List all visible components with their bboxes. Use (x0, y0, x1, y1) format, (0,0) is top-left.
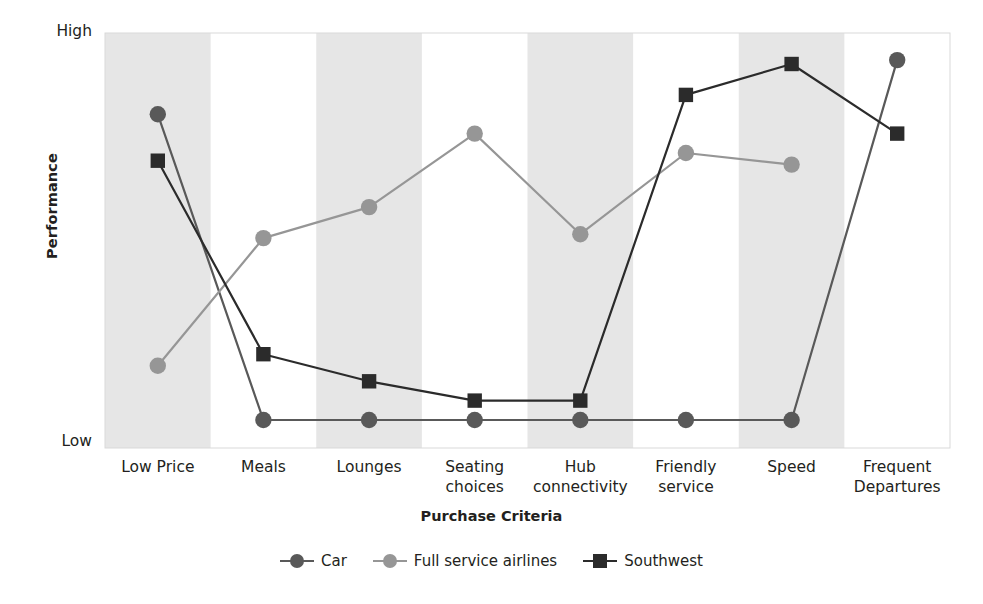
legend-swatch-circle-icon (373, 554, 407, 568)
plot-band (105, 33, 211, 448)
legend-swatch-square-icon (583, 554, 617, 568)
data-point-car[interactable] (467, 412, 483, 428)
data-point-full-service-airlines[interactable] (361, 199, 377, 215)
x-axis-tick-7: Speed (739, 458, 845, 478)
data-point-southwest[interactable] (890, 126, 904, 140)
data-point-full-service-airlines[interactable] (255, 230, 271, 246)
legend-marker-square-icon (593, 554, 607, 568)
legend-label: Southwest (624, 552, 703, 570)
legend-item-car[interactable]: Car (280, 552, 347, 570)
plot-band (739, 33, 845, 448)
data-point-car[interactable] (783, 412, 799, 428)
data-point-full-service-airlines[interactable] (467, 125, 483, 141)
data-point-car[interactable] (361, 412, 377, 428)
data-point-southwest[interactable] (679, 88, 693, 102)
chart-root: Performance High Low Low PriceMealsLoung… (0, 0, 983, 604)
data-point-southwest[interactable] (573, 393, 587, 407)
data-point-southwest[interactable] (151, 154, 165, 168)
legend-item-full-service-airlines[interactable]: Full service airlines (373, 552, 557, 570)
data-point-car[interactable] (255, 412, 271, 428)
data-point-car[interactable] (572, 412, 588, 428)
x-axis-tick-2: Meals (211, 458, 317, 478)
x-axis-tick-6: Friendly service (633, 458, 739, 497)
data-point-car[interactable] (678, 412, 694, 428)
data-point-southwest[interactable] (362, 374, 376, 388)
legend-label: Full service airlines (414, 552, 557, 570)
x-axis-tick-1: Low Price (105, 458, 211, 478)
data-point-car[interactable] (889, 52, 905, 68)
data-point-southwest[interactable] (256, 347, 270, 361)
data-point-full-service-airlines[interactable] (572, 226, 588, 242)
chart-legend: CarFull service airlinesSouthwest (0, 552, 983, 570)
data-point-full-service-airlines[interactable] (150, 358, 166, 374)
legend-item-southwest[interactable]: Southwest (583, 552, 703, 570)
legend-label: Car (321, 552, 347, 570)
data-point-full-service-airlines[interactable] (678, 145, 694, 161)
x-axis-title: Purchase Criteria (0, 508, 983, 524)
data-point-southwest[interactable] (468, 393, 482, 407)
legend-marker-circle-icon (290, 554, 304, 568)
data-point-full-service-airlines[interactable] (783, 156, 799, 172)
data-point-southwest[interactable] (784, 57, 798, 71)
legend-marker-circle-icon (383, 554, 397, 568)
x-axis-tick-8: Frequent Departures (844, 458, 950, 497)
x-axis-tick-5: Hub connectivity (528, 458, 634, 497)
x-axis-tick-3: Lounges (316, 458, 422, 478)
x-axis-tick-4: Seating choices (422, 458, 528, 497)
series-line-full-service-airlines (158, 134, 792, 366)
data-point-car[interactable] (150, 106, 166, 122)
legend-swatch-circle-icon (280, 554, 314, 568)
